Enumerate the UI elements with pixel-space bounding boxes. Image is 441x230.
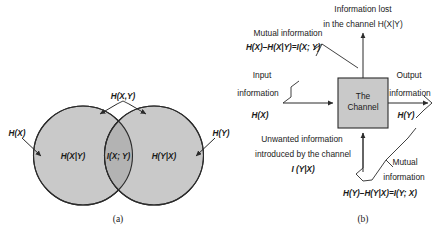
unwanted-information-bracket	[356, 133, 363, 181]
lower-mutual-information-line1: Mutual	[392, 157, 417, 167]
bottom-connector	[363, 180, 372, 181]
venn-conditional-xy-label: H(X|Y)	[61, 152, 86, 161]
venn-entropy-x-label: H(X)	[9, 129, 26, 138]
unwanted-information-line2: introduced by the channel	[255, 149, 351, 159]
upper-mutual-information-formula: H(X)–H(X|Y)=I(X; Y)	[246, 43, 321, 52]
channel-box-line1: The	[356, 91, 371, 101]
information-theory-figure: H(X,Y) H(X) H(Y) H(X|Y) I(X; Y) H(Y|X) (…	[0, 0, 441, 230]
venn-joint-entropy-label: H(X,Y)	[111, 92, 136, 101]
lower-mutual-information-line2: information	[383, 172, 425, 182]
unwanted-information-line1: Unwanted information	[261, 134, 343, 144]
venn-conditional-yx-label: H(Y|X)	[152, 152, 177, 161]
unwanted-information-formula: I (Y|X)	[291, 165, 314, 174]
output-label-line2: information	[389, 88, 431, 98]
figure-canvas: H(X,Y) H(X) H(Y) H(X|Y) I(X; Y) H(Y|X) (…	[0, 0, 441, 230]
channel-box-line2: Channel	[347, 102, 378, 112]
input-label-line1: Input	[253, 70, 272, 80]
venn-mutual-information-label: I(X; Y)	[107, 152, 131, 161]
output-bracket	[416, 96, 432, 118]
information-lost-line1: Information lost	[334, 4, 392, 14]
panel-b-caption: (b)	[357, 214, 368, 225]
lower-mutual-information-formula: H(Y)–H(Y|X)=I(Y; X)	[343, 189, 417, 198]
venn-entropy-y-label: H(Y)	[213, 129, 230, 138]
joint-entropy-leader-bracket	[117, 101, 129, 104]
input-label-entropy: H(X)	[252, 111, 269, 120]
input-label-line2: information	[237, 88, 279, 98]
channel-block-diagram: The Channel Informa	[237, 4, 432, 225]
venn-diagram: H(X,Y) H(X) H(Y) H(X|Y) I(X; Y) H(Y|X) (…	[9, 92, 230, 225]
panel-a-caption: (a)	[113, 214, 124, 225]
input-bracket	[283, 81, 299, 103]
information-lost-line2: in the channel H(X|Y)	[323, 19, 403, 29]
output-label-line1: Output	[396, 70, 422, 80]
upper-mutual-information-line1: Mutual information	[254, 28, 323, 38]
output-label-entropy: H(Y)	[398, 111, 415, 120]
